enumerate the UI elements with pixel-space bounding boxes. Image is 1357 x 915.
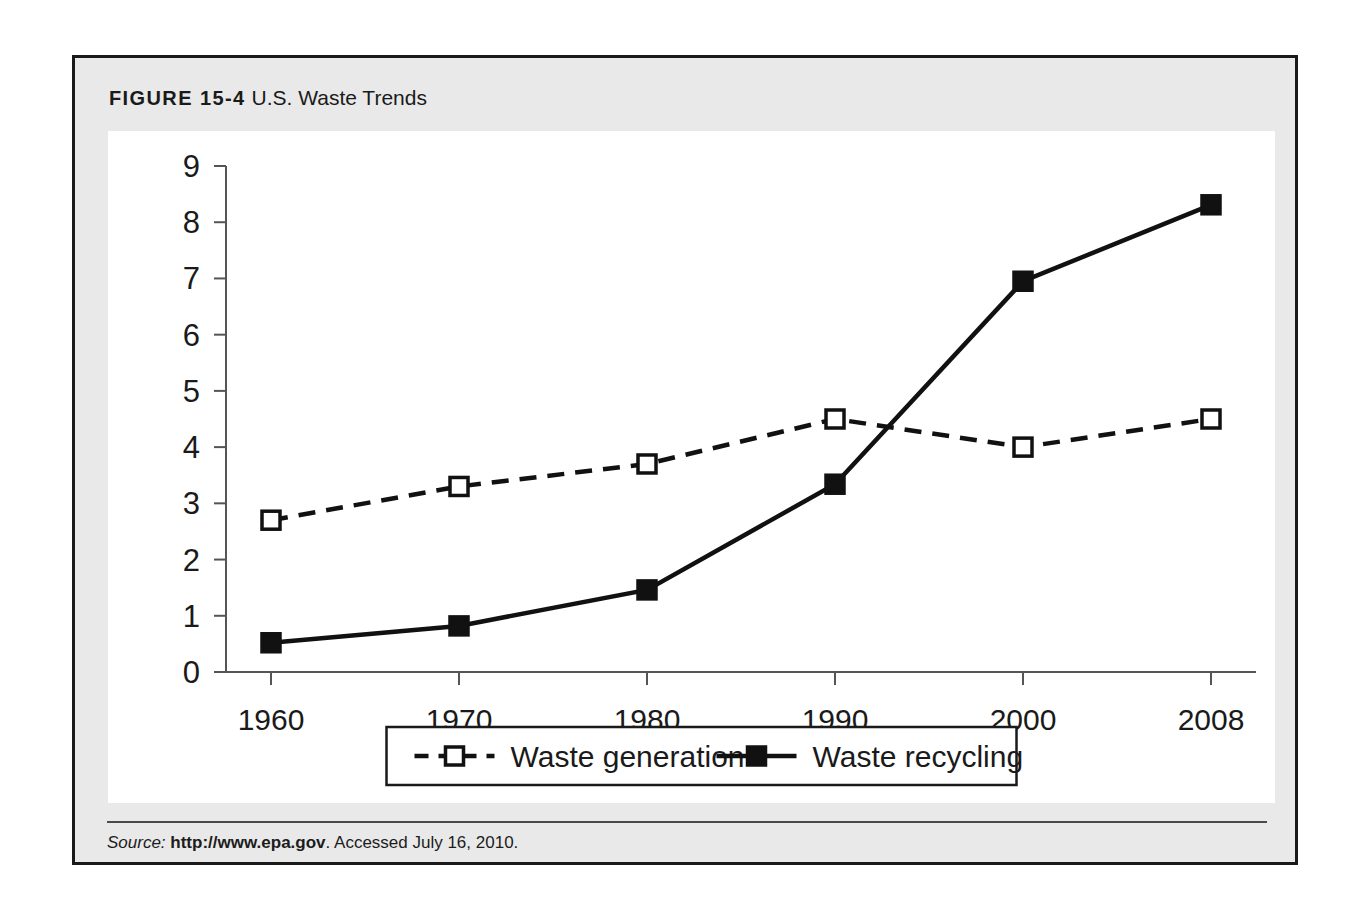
legend-label-1: Waste generation: [511, 740, 745, 773]
chart-axes: [214, 166, 1256, 685]
figure-number: FIGURE 15-4: [109, 87, 246, 109]
data-point-marker: [826, 475, 844, 493]
data-point-marker: [1202, 196, 1220, 214]
data-point-marker: [262, 511, 280, 529]
waste-trends-line-chart: 0123456789 196019701980199020002008 Wast…: [108, 131, 1275, 803]
data-point-marker: [1014, 438, 1032, 456]
data-point-marker: [1202, 410, 1220, 428]
source-accessed-date: . Accessed July 16, 2010.: [326, 833, 519, 852]
data-point-marker: [826, 410, 844, 428]
legend-marker-sample-2: [748, 747, 766, 765]
figure-caption: U.S. Waste Trends: [251, 86, 426, 109]
y-axis-tick-label: 9: [183, 149, 200, 184]
data-point-marker: [638, 581, 656, 599]
chart-legend: Waste generationWaste recycling: [387, 727, 1024, 785]
y-axis-tick-label: 3: [183, 486, 200, 521]
x-axis-tick-label: 1960: [238, 703, 305, 736]
source-url[interactable]: http://www.epa.gov: [170, 833, 325, 852]
source-note: Source: http://www.epa.gov. Accessed Jul…: [107, 833, 518, 853]
y-axis-tick-labels: 0123456789: [183, 149, 200, 690]
y-axis-tick-label: 5: [183, 374, 200, 409]
y-axis-tick-label: 2: [183, 543, 200, 578]
y-axis-tick-label: 0: [183, 655, 200, 690]
legend-label-2: Waste recycling: [813, 740, 1024, 773]
series-line-2: [271, 205, 1211, 643]
figure-container: FIGURE 15-4 U.S. Waste Trends 0123456789…: [72, 55, 1298, 865]
source-divider: [107, 821, 1267, 823]
source-label: Source:: [107, 833, 166, 852]
y-axis-tick-label: 4: [183, 430, 200, 465]
y-axis-tick-label: 8: [183, 205, 200, 240]
data-point-marker: [450, 477, 468, 495]
chart-series-lines: [262, 196, 1220, 652]
figure-title: FIGURE 15-4 U.S. Waste Trends: [109, 86, 427, 110]
data-point-marker: [450, 617, 468, 635]
x-axis-tick-label: 2008: [1178, 703, 1245, 736]
chart-panel: 0123456789 196019701980199020002008 Wast…: [108, 131, 1275, 803]
data-point-marker: [1014, 272, 1032, 290]
data-point-marker: [262, 634, 280, 652]
y-axis-tick-label: 6: [183, 318, 200, 353]
y-axis-tick-label: 7: [183, 261, 200, 296]
legend-marker-sample-1: [446, 747, 464, 765]
y-axis-tick-label: 1: [183, 599, 200, 634]
data-point-marker: [638, 455, 656, 473]
series-line-1: [271, 419, 1211, 520]
